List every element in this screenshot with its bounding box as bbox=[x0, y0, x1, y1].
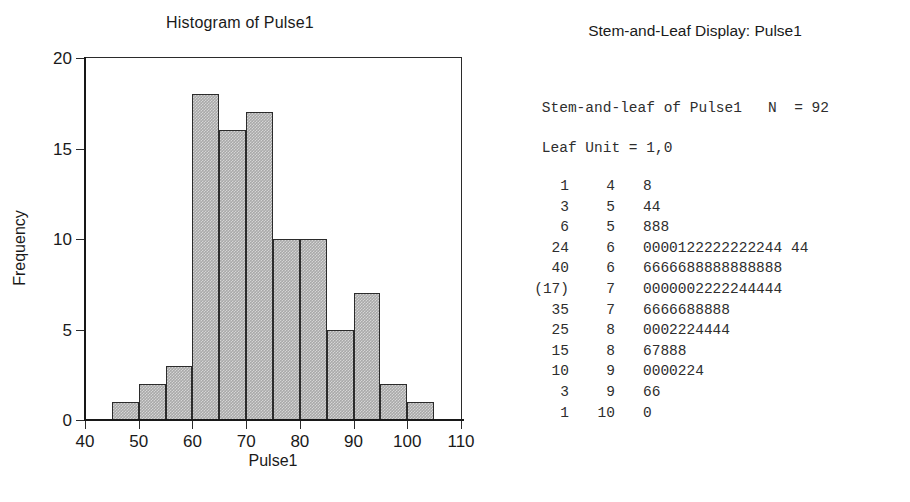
stem-and-leaf-depth: 6 bbox=[507, 217, 569, 238]
stem-and-leaf-leaves: 0000002222244444 bbox=[615, 279, 782, 300]
y-axis-tick-label: 5 bbox=[63, 321, 72, 338]
histogram-bar bbox=[300, 239, 327, 420]
y-axis-title: Frequency bbox=[11, 148, 29, 348]
stem-and-leaf-row: 148 bbox=[507, 176, 808, 197]
x-axis-tick bbox=[407, 420, 408, 429]
y-axis-tick-label: 15 bbox=[53, 140, 72, 157]
stem-and-leaf-leaves: 0 bbox=[615, 403, 652, 424]
x-axis-tick-label: 100 bbox=[393, 433, 421, 450]
stem-and-leaf-rows: 1483544658882460000122222222244 44406666… bbox=[507, 176, 808, 423]
x-axis-tick-label: 40 bbox=[76, 433, 95, 450]
x-axis-tick bbox=[461, 420, 462, 429]
x-axis-title: Pulse1 bbox=[84, 452, 462, 470]
stem-and-leaf-stem: 9 bbox=[569, 382, 615, 403]
histogram-panel: Histogram of Pulse1 05101520405060708090… bbox=[0, 0, 480, 502]
stem-and-leaf-panel: Stem-and-Leaf Display: Pulse1 Stem-and-l… bbox=[480, 0, 910, 502]
histogram-bar bbox=[166, 366, 193, 420]
stem-and-leaf-row: 3576666688888 bbox=[507, 300, 808, 321]
stem-and-leaf-stem: 5 bbox=[569, 197, 615, 218]
y-axis-tick-label: 20 bbox=[53, 50, 72, 67]
stem-and-leaf-depth: 1 bbox=[507, 176, 569, 197]
stem-and-leaf-header: Stem-and-leaf of Pulse1 N = 92 Leaf Unit… bbox=[507, 78, 829, 178]
x-axis-tick-label: 70 bbox=[237, 433, 256, 450]
stem-and-leaf-header-line1: Stem-and-leaf of Pulse1 N = 92 bbox=[542, 100, 829, 116]
y-axis-tick-label: 10 bbox=[53, 231, 72, 248]
x-axis-tick bbox=[300, 420, 301, 429]
x-axis-tick-label: 90 bbox=[344, 433, 363, 450]
stem-and-leaf-depth: 24 bbox=[507, 238, 569, 259]
stem-and-leaf-stem: 7 bbox=[569, 279, 615, 300]
histogram-bar bbox=[246, 112, 273, 420]
stem-and-leaf-stem: 8 bbox=[569, 341, 615, 362]
histogram-bar bbox=[219, 130, 246, 420]
histogram-bar bbox=[380, 384, 407, 420]
stem-and-leaf-depth: 40 bbox=[507, 258, 569, 279]
stem-and-leaf-depth: (17) bbox=[507, 279, 569, 300]
y-axis-spine bbox=[84, 57, 86, 421]
x-axis-tick bbox=[354, 420, 355, 429]
x-axis-tick bbox=[246, 420, 247, 429]
histogram-bar bbox=[407, 402, 434, 420]
stem-and-leaf-depth: 25 bbox=[507, 320, 569, 341]
histogram-bar bbox=[354, 293, 381, 420]
stem-and-leaf-row: (17)70000002222244444 bbox=[507, 279, 808, 300]
stem-and-leaf-depth: 1 bbox=[507, 403, 569, 424]
x-axis-tick-label: 80 bbox=[290, 433, 309, 450]
x-axis-tick bbox=[139, 420, 140, 429]
stem-and-leaf-stem: 7 bbox=[569, 300, 615, 321]
stem-and-leaf-row: 3544 bbox=[507, 197, 808, 218]
stem-and-leaf-leaves: 6666688888 bbox=[615, 300, 730, 321]
stem-and-leaf-row: 3966 bbox=[507, 382, 808, 403]
stem-and-leaf-depth: 10 bbox=[507, 361, 569, 382]
x-axis-tick bbox=[192, 420, 193, 429]
stem-and-leaf-depth: 3 bbox=[507, 197, 569, 218]
histogram-bar bbox=[192, 94, 219, 420]
stem-and-leaf-row: 1090000224 bbox=[507, 361, 808, 382]
stem-and-leaf-stem: 6 bbox=[569, 258, 615, 279]
stem-and-leaf-row: 2580002224444 bbox=[507, 320, 808, 341]
histogram-bar bbox=[327, 330, 354, 421]
stem-and-leaf-stem: 9 bbox=[569, 361, 615, 382]
stem-and-leaf-depth: 15 bbox=[507, 341, 569, 362]
stem-and-leaf-leaves: 67888 bbox=[615, 341, 687, 362]
x-axis-tick-label: 50 bbox=[129, 433, 148, 450]
histogram-plot-area: 05101520405060708090100110 bbox=[84, 57, 462, 421]
stem-and-leaf-leaves: 0000122222222244 44 bbox=[615, 238, 808, 259]
stem-and-leaf-stem: 10 bbox=[569, 403, 615, 424]
stem-and-leaf-row: 65888 bbox=[507, 217, 808, 238]
stem-and-leaf-header-line2: Leaf Unit = 1,0 bbox=[542, 140, 673, 156]
stem-and-leaf-row: 4066666688888888888 bbox=[507, 258, 808, 279]
x-axis-tick-label: 110 bbox=[447, 433, 474, 450]
stem-and-leaf-row: 1100 bbox=[507, 403, 808, 424]
stem-and-leaf-depth: 3 bbox=[507, 382, 569, 403]
stem-and-leaf-row: 2460000122222222244 44 bbox=[507, 238, 808, 259]
stem-and-leaf-leaves: 8 bbox=[615, 176, 652, 197]
stem-and-leaf-row: 15867888 bbox=[507, 341, 808, 362]
y-axis-tick-label: 0 bbox=[63, 412, 72, 429]
histogram-bar bbox=[112, 402, 139, 420]
stem-and-leaf-stem: 4 bbox=[569, 176, 615, 197]
stem-and-leaf-leaves: 66 bbox=[615, 382, 660, 403]
histogram-bar bbox=[139, 384, 166, 420]
stem-and-leaf-title: Stem-and-Leaf Display: Pulse1 bbox=[480, 22, 910, 40]
x-axis-tick-label: 60 bbox=[183, 433, 202, 450]
stem-and-leaf-stem: 5 bbox=[569, 217, 615, 238]
stem-and-leaf-stem: 6 bbox=[569, 238, 615, 259]
histogram-title: Histogram of Pulse1 bbox=[0, 14, 480, 32]
stem-and-leaf-leaves: 0000224 bbox=[615, 361, 704, 382]
x-axis-spine bbox=[84, 419, 464, 421]
stem-and-leaf-leaves: 6666688888888888 bbox=[615, 258, 782, 279]
stem-and-leaf-depth: 35 bbox=[507, 300, 569, 321]
x-axis-tick bbox=[85, 420, 86, 429]
histogram-bars bbox=[85, 58, 461, 420]
histogram-bar bbox=[273, 239, 300, 420]
stem-and-leaf-leaves: 888 bbox=[615, 217, 669, 238]
stem-and-leaf-leaves: 0002224444 bbox=[615, 320, 730, 341]
stem-and-leaf-leaves: 44 bbox=[615, 197, 660, 218]
stem-and-leaf-stem: 8 bbox=[569, 320, 615, 341]
